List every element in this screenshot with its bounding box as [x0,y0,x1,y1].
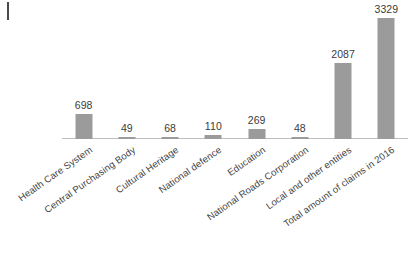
bar-chart: 69849681102694820873329 Health Care Syst… [0,0,419,261]
page-margin-rule [7,2,9,20]
bar[interactable] [162,137,179,139]
bar[interactable] [291,137,308,139]
bar-value-label: 3329 [374,3,398,15]
bar-slot: 698 [62,8,105,139]
bar[interactable] [75,114,92,139]
category-label-text: Health Care System [16,144,94,203]
bar-value-label: 2087 [331,48,355,60]
bar[interactable] [118,137,135,139]
bar-slot: 48 [278,8,321,139]
bar-value-label: 698 [75,99,93,111]
bar[interactable] [205,135,222,139]
